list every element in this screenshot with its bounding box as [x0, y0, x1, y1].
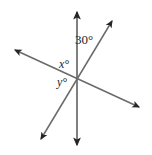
angle-label-30: 30° — [75, 33, 93, 46]
angle-diagram-figure: 30° x° y° — [0, 0, 152, 155]
diagram-canvas — [0, 0, 152, 155]
angle-label-y: y° — [57, 76, 67, 88]
angle-label-x: x° — [59, 58, 69, 70]
